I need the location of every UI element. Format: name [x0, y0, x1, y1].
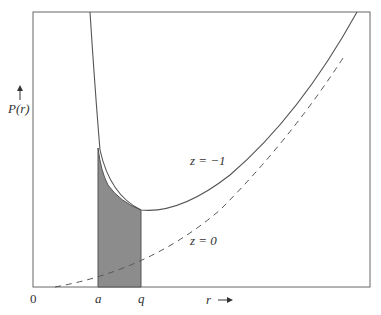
origin-label: 0	[30, 291, 37, 306]
z-0-label: z = 0	[189, 233, 217, 248]
z-neg1-label: z = −1	[189, 153, 226, 168]
a-label: a	[95, 291, 102, 306]
y-arrow-icon	[17, 85, 23, 91]
q-label: q	[138, 291, 145, 306]
shaded-area	[98, 148, 141, 287]
x-axis-label: r	[206, 292, 212, 307]
y-axis-label: P(r)	[7, 101, 30, 116]
chart: P(r) 0 a q r z = −1 z = 0	[0, 0, 381, 315]
curve-z-neg1	[90, 12, 357, 210]
x-arrow-icon	[227, 297, 233, 303]
